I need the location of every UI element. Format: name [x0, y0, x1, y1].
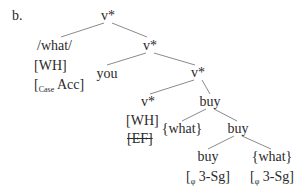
- node-what-wh: [WH]: [34, 58, 67, 74]
- node-buy2: buy: [228, 121, 249, 137]
- edge-buy1-buy2: [214, 109, 237, 121]
- node-you: you: [97, 66, 118, 82]
- node-what-case: [Case Acc]: [34, 77, 84, 98]
- node-v4-ef: [EF]: [127, 131, 153, 147]
- edge-root-v2: [112, 23, 147, 37]
- node-buy1: buy: [200, 94, 221, 110]
- edge-v3-buy1: [202, 80, 210, 94]
- node-what-low-phi: [φ 3-Sg]: [250, 169, 294, 190]
- node-what-low: {what}: [252, 149, 293, 165]
- edge-root-spec: [61, 23, 104, 37]
- edge-v2-v3: [154, 53, 195, 65]
- node-what-phon: /what/: [37, 38, 72, 54]
- case-val: Acc]: [57, 77, 84, 92]
- example-label: b.: [12, 8, 23, 24]
- node-v3: v*: [191, 65, 205, 81]
- node-what-copy: {what}: [162, 121, 203, 137]
- edge-buy2-buy3: [208, 136, 234, 149]
- edge-buy1-what: [182, 109, 206, 121]
- node-root: v*: [101, 8, 115, 24]
- node-v2: v*: [143, 38, 157, 54]
- edge-v2-you: [107, 53, 146, 65]
- node-v4: v*: [141, 94, 155, 110]
- edge-v3-v4: [150, 80, 194, 94]
- node-buy3: buy: [198, 149, 219, 165]
- node-buy3-phi: [φ 3-Sg]: [186, 169, 230, 190]
- case-sub: Case: [39, 85, 55, 94]
- edge-buy2-whatlow: [242, 136, 271, 149]
- node-v4-wh: [WH]: [126, 113, 159, 129]
